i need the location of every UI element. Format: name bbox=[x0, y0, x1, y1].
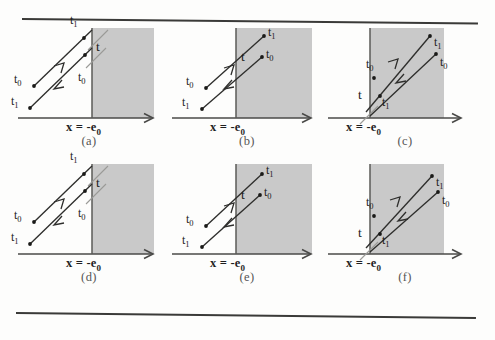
label-t1-upper: t1 bbox=[434, 36, 442, 51]
bottom-divider-rule bbox=[16, 312, 476, 319]
dot-t0-right bbox=[434, 52, 438, 56]
panel-caption: (d) bbox=[10, 270, 168, 285]
ray-incoming-arrowhead bbox=[54, 216, 64, 225]
label-t-boundary: t bbox=[358, 88, 362, 102]
ray-incoming-arrowhead bbox=[224, 80, 234, 89]
label-t0-left: t0 bbox=[14, 209, 22, 224]
dot-t1-top bbox=[82, 172, 86, 176]
panel-d: t1 t t0 t0 t1 x = -e0 (d) bbox=[10, 152, 168, 292]
label-t0-left: t0 bbox=[186, 75, 194, 90]
dot-t0-left bbox=[32, 220, 36, 224]
shaded-region bbox=[236, 164, 312, 254]
dot-t1-lower bbox=[200, 107, 204, 111]
dot-t0-inner bbox=[372, 214, 376, 218]
dot-t0-left bbox=[204, 86, 208, 90]
label-t1-top: t1 bbox=[268, 26, 276, 41]
figure-page: t1 t t0 t0 t1 x = -e0 (a) t1 t t0 t0 t1 … bbox=[0, 0, 495, 340]
dot-t0-left bbox=[204, 224, 208, 228]
panel-c: t0 t1 t0 t t1 x = -e0 (c) bbox=[326, 16, 484, 156]
label-t0-inner: t0 bbox=[366, 58, 374, 73]
panel-f: t0 t1 t0 t t1 x = -e0 (f) bbox=[326, 152, 484, 292]
panel-caption: (a) bbox=[10, 134, 168, 149]
dot-t0-inner bbox=[372, 76, 376, 80]
panel-caption: (e) bbox=[168, 270, 326, 285]
dot-t1-lower bbox=[200, 245, 204, 249]
label-t1-lower: t1 bbox=[382, 96, 390, 111]
label-t-boundary: t bbox=[241, 50, 245, 64]
label-t0-left: t0 bbox=[186, 213, 194, 228]
panel-e: t1 t t0 t0 t1 x = -e0 (e) bbox=[168, 152, 326, 292]
label-t0-left: t0 bbox=[14, 73, 22, 88]
label-t-boundary: t bbox=[96, 40, 100, 54]
dot-t0-left bbox=[32, 84, 36, 88]
dot-t0-inner bbox=[83, 189, 87, 193]
dot-t1-top bbox=[260, 172, 264, 176]
label-t0-inner: t0 bbox=[264, 186, 272, 201]
label-t1-lower: t1 bbox=[382, 234, 390, 249]
dot-t1-lower bbox=[28, 106, 32, 110]
panel-b: t1 t t0 t0 t1 x = -e0 (b) bbox=[168, 16, 326, 156]
shaded-region bbox=[92, 28, 154, 118]
label-t0-inner: t0 bbox=[366, 196, 374, 211]
label-t1-upper: t1 bbox=[436, 176, 444, 191]
panel-caption: (c) bbox=[326, 134, 484, 149]
dot-t0-inner bbox=[83, 53, 87, 57]
shaded-region bbox=[236, 28, 312, 118]
label-t1-lower: t1 bbox=[11, 95, 19, 110]
label-t1-lower: t1 bbox=[11, 231, 19, 246]
dot-t1-top bbox=[82, 36, 86, 40]
label-t1-top: t1 bbox=[70, 14, 78, 29]
dot-t0-inner bbox=[258, 193, 262, 197]
dot-t0-inner bbox=[260, 55, 264, 59]
label-t0-inner: t0 bbox=[78, 71, 86, 86]
label-t-boundary: t bbox=[241, 188, 245, 202]
label-t-boundary: t bbox=[96, 176, 100, 190]
label-t-boundary: t bbox=[358, 226, 362, 240]
label-t0-right: t0 bbox=[442, 194, 450, 209]
label-t1-top: t1 bbox=[70, 150, 78, 165]
ray-incoming-arrowhead bbox=[54, 80, 64, 89]
dot-t1-upper bbox=[428, 34, 432, 38]
panel-a: t1 t t0 t0 t1 x = -e0 (a) bbox=[10, 16, 168, 156]
panel-caption: (f) bbox=[326, 270, 484, 285]
dot-t1-upper bbox=[430, 174, 434, 178]
panel-caption: (b) bbox=[168, 134, 326, 149]
shaded-region bbox=[92, 164, 154, 254]
label-t0-inner: t0 bbox=[78, 207, 86, 222]
label-t1-lower: t1 bbox=[182, 234, 190, 249]
dot-t1-lower bbox=[28, 242, 32, 246]
label-t1-lower: t1 bbox=[182, 96, 190, 111]
label-t0-right: t0 bbox=[440, 56, 448, 71]
label-t0-inner: t0 bbox=[266, 48, 274, 63]
label-t1-top: t1 bbox=[266, 164, 274, 179]
dot-t1-top bbox=[262, 34, 266, 38]
